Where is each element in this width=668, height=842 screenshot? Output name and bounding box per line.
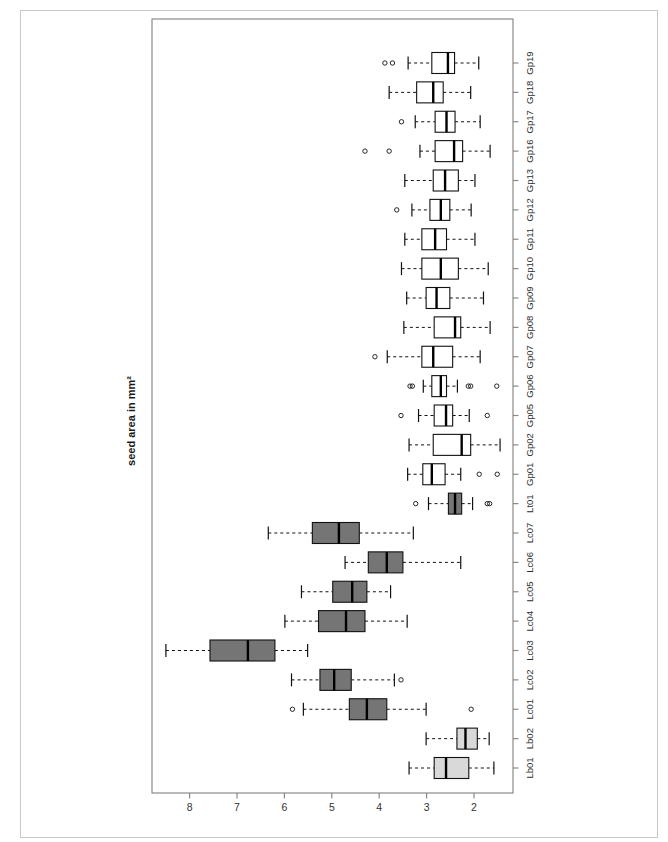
category-label-lt01: Lt01	[524, 494, 535, 513]
value-tick-label-8: 8	[187, 801, 193, 813]
category-label-lc02: Lc02	[524, 670, 535, 691]
outlier-gp01-1	[495, 472, 499, 476]
value-tick-label-3: 3	[424, 801, 430, 813]
category-label-lc07: Lc07	[524, 523, 535, 544]
category-label-gp07: Gp07	[524, 345, 535, 368]
box-lc04	[319, 611, 365, 632]
category-label-lb02: Lb02	[524, 728, 535, 749]
figure-page: seed area in mm² 8765432Gp19Gp18Gp17Gp16…	[0, 0, 668, 842]
box-gp09	[426, 288, 450, 309]
category-label-gp05: Gp05	[524, 404, 535, 427]
boxplot-chart: 8765432Gp19Gp18Gp17Gp16Gp13Gp12Gp11Gp10G…	[0, 0, 668, 842]
outlier-lc01-1	[469, 707, 473, 711]
value-tick-label-2: 2	[471, 801, 477, 813]
value-tick-label-4: 4	[376, 801, 382, 813]
box-lc02	[320, 669, 351, 690]
box-gp16	[435, 141, 462, 162]
box-gp08	[434, 317, 461, 338]
category-label-gp18: Gp18	[524, 81, 535, 104]
box-lc07	[312, 523, 359, 544]
value-axis-title: seed area in mm²	[125, 376, 137, 466]
category-label-gp13: Gp13	[524, 169, 535, 192]
category-label-lc01: Lc01	[524, 699, 535, 720]
box-gp02	[433, 434, 470, 455]
category-label-lb01: Lb01	[524, 757, 535, 778]
outlier-gp17-0	[399, 120, 403, 124]
outlier-gp05-0	[399, 413, 403, 417]
box-lc03	[210, 640, 275, 661]
box-gp07	[422, 346, 453, 367]
box-gp19	[432, 53, 455, 74]
outlier-lc02-0	[399, 678, 403, 682]
box-gp17	[435, 111, 455, 132]
box-lc05	[333, 581, 367, 602]
outlier-gp16-1	[363, 149, 367, 153]
category-label-gp16: Gp16	[524, 140, 535, 163]
outlier-lt01-0	[413, 501, 417, 505]
category-label-lc04: Lc04	[524, 611, 535, 632]
category-label-gp12: Gp12	[524, 198, 535, 221]
outlier-gp19-1	[383, 61, 387, 65]
value-tick-label-6: 6	[281, 801, 287, 813]
value-tick-label-5: 5	[329, 801, 335, 813]
category-label-gp02: Gp02	[524, 433, 535, 456]
category-label-lc05: Lc05	[524, 581, 535, 602]
outlier-gp07-0	[373, 355, 377, 359]
category-label-gp17: Gp17	[524, 110, 535, 133]
outlier-gp01-0	[477, 472, 481, 476]
outlier-gp06-4	[495, 384, 499, 388]
value-tick-label-7: 7	[234, 801, 240, 813]
outlier-gp05-1	[485, 413, 489, 417]
outlier-lc01-0	[290, 707, 294, 711]
category-label-gp06: Gp06	[524, 375, 535, 398]
box-gp05	[434, 405, 452, 426]
box-gp06	[432, 376, 447, 397]
category-label-gp10: Gp10	[524, 257, 535, 280]
category-label-gp01: Gp01	[524, 463, 535, 486]
box-gp01	[423, 464, 445, 485]
category-label-gp19: Gp19	[524, 51, 535, 74]
box-lb02	[457, 728, 477, 749]
box-gp18	[417, 82, 444, 103]
category-label-gp08: Gp08	[524, 316, 535, 339]
outlier-gp19-0	[390, 61, 394, 65]
outlier-gp16-0	[387, 149, 391, 153]
category-label-gp09: Gp09	[524, 286, 535, 309]
category-label-lc06: Lc06	[524, 552, 535, 573]
outlier-gp12-0	[395, 208, 399, 212]
box-lb01	[434, 758, 469, 779]
category-label-gp11: Gp11	[524, 228, 535, 251]
category-label-lc03: Lc03	[524, 640, 535, 661]
